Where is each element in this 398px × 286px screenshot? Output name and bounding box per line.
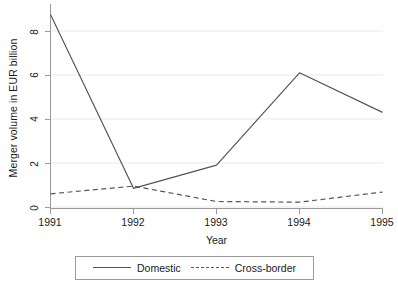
x-tick-label-1992: 1992 (111, 216, 155, 228)
x-tick-label-1993: 1993 (194, 216, 238, 228)
legend-key-dashed-line-icon (191, 267, 229, 270)
series-line-cross-border (51, 186, 383, 202)
y-axis-title-text: Merger volume in EUR billion (7, 38, 19, 177)
x-tick-mark-1992 (133, 209, 134, 214)
x-tick-label-1991: 1991 (28, 216, 72, 228)
plot-area (50, 4, 383, 208)
series-line-domestic (51, 15, 383, 189)
x-tick-label-1994: 1994 (277, 216, 321, 228)
x-tick-label-1995: 1995 (360, 216, 398, 228)
y-axis-title: Merger volume in EUR billion (0, 0, 26, 215)
x-tick-mark-1993 (216, 209, 217, 214)
x-tick-mark-1994 (299, 209, 300, 214)
x-tick-mark-1995 (382, 209, 383, 214)
y-tick-label-8: 8 (27, 26, 43, 38)
x-axis-title: Year (50, 234, 383, 246)
y-tick-label-2: 2 (27, 158, 43, 170)
plot-svg (50, 4, 383, 208)
legend-label-cross-border: Cross-border (235, 262, 296, 274)
legend-entry-domestic: Domestic (93, 262, 181, 274)
x-tick-mark-1991 (50, 209, 51, 214)
y-tick-label-0: 0 (27, 202, 43, 214)
y-tick-label-6: 6 (27, 69, 43, 81)
legend-entry-cross-border: Cross-border (191, 262, 296, 274)
legend-label-domestic: Domestic (137, 262, 181, 274)
y-tick-label-4: 4 (27, 113, 43, 125)
legend-key-solid-line-icon (93, 267, 131, 270)
chart-legend: Domestic Cross-border (75, 256, 314, 280)
